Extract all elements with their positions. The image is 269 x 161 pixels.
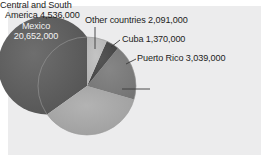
slice-label-puerto-rico: Puerto Rico 3,039,000 [137,53,225,63]
slice-label-mexico-value: 20,652,000 [0,31,72,42]
slice-label-mexico: Mexico 20,652,000 [0,21,72,42]
slice-label-central-south-america-line1: Central and South [0,0,269,10]
slice-label-central-south-america: Central and South America 4,536,000 [0,0,269,21]
slice-label-central-south-america-line2: America 4,536,000 [5,10,269,20]
pie-chart-figure: Other countries 2,091,000 Cuba 1,370,000… [0,0,269,161]
slice-label-mexico-name: Mexico [0,21,72,32]
slice-label-cuba: Cuba 1,370,000 [122,34,185,44]
